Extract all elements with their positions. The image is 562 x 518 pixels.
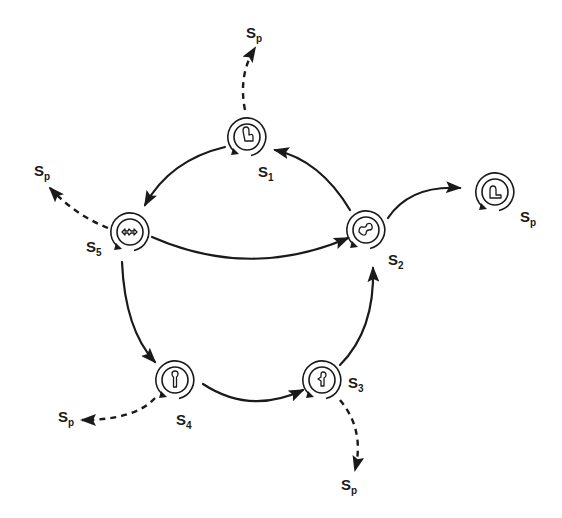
edge-s1-to-s5 bbox=[145, 147, 225, 205]
node-s3 bbox=[303, 361, 341, 399]
sp-label-left: Sp bbox=[34, 162, 50, 182]
edge-s5-to-s2 bbox=[152, 237, 348, 259]
sp-label-top: Sp bbox=[246, 24, 262, 44]
node-s4-label: S4 bbox=[176, 411, 192, 431]
sp-label-bottom-left: Sp bbox=[58, 408, 74, 428]
node-s5 bbox=[111, 213, 149, 251]
edge-s3-to-s2 bbox=[340, 268, 373, 365]
state-cycle-diagram: S1 S2 S3 S4 S5 Sp Sp Sp Sp S bbox=[0, 0, 562, 518]
node-s2 bbox=[347, 211, 385, 249]
edge-s2-to-s1 bbox=[275, 150, 350, 210]
node-s1-label: S1 bbox=[258, 163, 274, 183]
node-sp bbox=[476, 173, 514, 211]
edge-s5-to-s4 bbox=[122, 262, 155, 362]
edge-s5-to-sp bbox=[50, 188, 108, 228]
sp-label-bottom: Sp bbox=[341, 476, 357, 496]
edge-s1-to-sp bbox=[243, 48, 255, 110]
edge-s3-to-sp bbox=[340, 400, 358, 470]
node-s5-label: S5 bbox=[86, 238, 102, 258]
edge-s4-to-sp bbox=[82, 398, 155, 420]
node-s4 bbox=[156, 361, 194, 399]
node-s2-label: S2 bbox=[388, 251, 404, 271]
edge-s4-to-s3 bbox=[203, 384, 303, 401]
edge-s2-to-sp-node bbox=[388, 188, 460, 218]
node-s1 bbox=[228, 118, 266, 156]
node-s3-label: S3 bbox=[348, 374, 364, 394]
node-sp-label: Sp bbox=[520, 208, 536, 228]
